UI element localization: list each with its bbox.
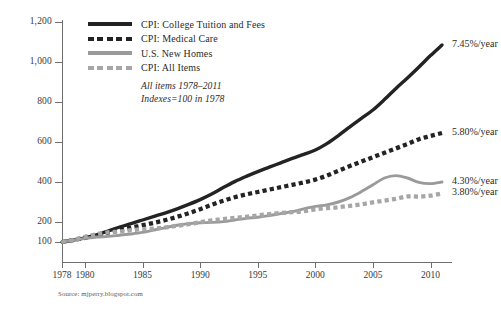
series-annotation: 4.30%/year <box>452 175 498 186</box>
legend-item[interactable]: CPI: Medical Care <box>88 32 265 47</box>
legend-swatch-icon <box>88 66 132 70</box>
legend-swatch-icon <box>88 51 132 55</box>
chart-legend: CPI: College Tuition and FeesCPI: Medica… <box>88 17 265 75</box>
series-line <box>62 176 442 242</box>
legend-label: U.S. New Homes <box>141 48 212 59</box>
note-line-2: Indexes=100 in 1978 <box>141 93 225 104</box>
legend-swatch-icon <box>88 22 132 26</box>
legend-swatch-icon <box>88 37 132 41</box>
series-annotation: 7.45%/year <box>452 38 498 49</box>
chart-container: 1,2001,000800600400200100 19781980198519… <box>0 0 501 315</box>
legend-label: CPI: All Items <box>141 62 200 73</box>
note-line-1: All items 1978–2011 <box>141 80 222 91</box>
legend-item[interactable]: CPI: College Tuition and Fees <box>88 17 265 32</box>
legend-label: CPI: Medical Care <box>141 33 218 44</box>
legend-item[interactable]: CPI: All Items <box>88 61 265 76</box>
series-annotation: 3.80%/year <box>452 186 498 197</box>
legend-label: CPI: College Tuition and Fees <box>141 19 265 30</box>
source-caption: Source: mjperry.blogspot.com <box>58 290 143 297</box>
legend-item[interactable]: U.S. New Homes <box>88 46 265 61</box>
series-annotation: 5.80%/year <box>452 126 498 137</box>
